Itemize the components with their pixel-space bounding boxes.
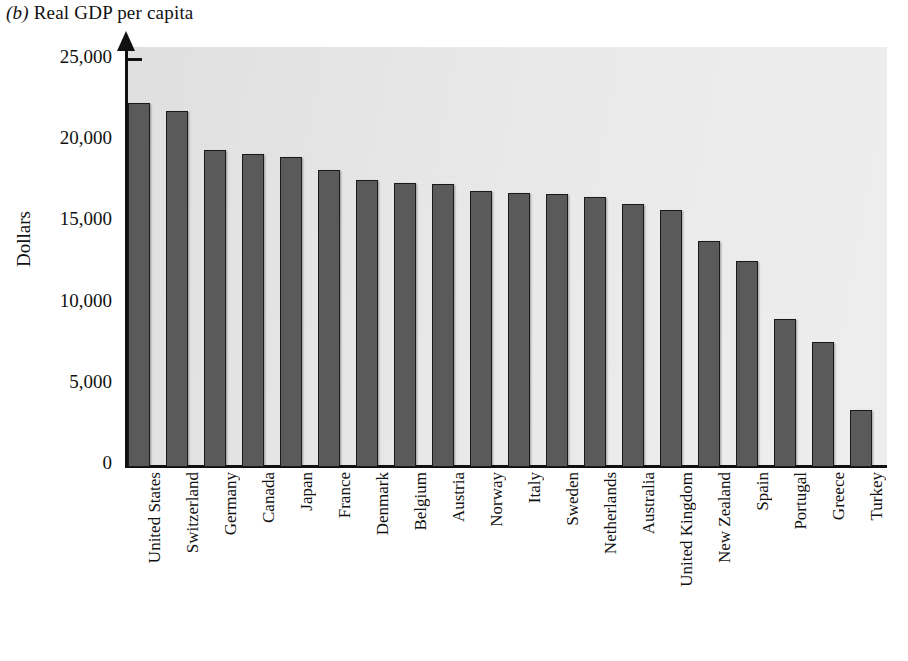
panel-letter: (b) [6, 2, 29, 23]
bar [356, 180, 378, 467]
bar [850, 410, 872, 467]
x-axis-category-label-text: United States [145, 472, 165, 563]
x-axis-category-label-text: Turkey [867, 472, 887, 521]
bar [584, 197, 606, 467]
x-axis-category-label-text: Austria [449, 472, 469, 522]
bar [660, 210, 682, 467]
x-axis-category-label: France [318, 472, 340, 652]
x-axis-category-label: Sweden [546, 472, 568, 652]
bar [318, 170, 340, 467]
x-axis-category-label: Italy [508, 472, 530, 652]
x-axis-category-label-text: Switzerland [183, 472, 203, 553]
figure-real-gdp-per-capita: (b) Real GDP per capita Dollars 25,00020… [0, 0, 908, 661]
x-axis-category-label-text: New Zealand [715, 472, 735, 563]
x-axis-category-label-text: Netherlands [601, 472, 621, 554]
y-axis-tick-label-text: 20,000 [60, 127, 112, 149]
x-axis-category-label: Austria [432, 472, 454, 652]
y-axis-tick-label-text: 0 [103, 452, 113, 474]
bar [736, 261, 758, 467]
bar [508, 193, 530, 467]
bar [166, 111, 188, 467]
x-axis-category-label-text: Canada [259, 472, 279, 523]
figure-title: (b) Real GDP per capita [6, 2, 194, 24]
x-axis-category-label-text: Germany [221, 472, 241, 535]
x-axis-category-label-text: Japan [297, 472, 317, 511]
y-axis-tick-label-text: 10,000 [60, 290, 112, 312]
bar [774, 319, 796, 467]
figure-title-text: Real GDP per capita [34, 2, 194, 23]
x-axis-category-label: United Kingdom [660, 472, 682, 652]
x-axis-category-label: Canada [242, 472, 264, 652]
x-axis-category-label-text: Belgium [411, 472, 431, 531]
x-axis-category-label-text: Portugal [791, 472, 811, 530]
bar [546, 194, 568, 467]
x-axis-category-label: Belgium [394, 472, 416, 652]
x-axis-category-label-text: Denmark [373, 472, 393, 535]
bar [394, 183, 416, 467]
x-axis-category-label: United States [128, 472, 150, 652]
y-axis-tick-label-text: 5,000 [69, 371, 112, 393]
x-axis-category-label: Spain [736, 472, 758, 652]
x-axis-category-label: Australia [622, 472, 644, 652]
x-axis-category-label: Norway [470, 472, 492, 652]
x-axis-category-label: Portugal [774, 472, 796, 652]
x-axis-category-label: Japan [280, 472, 302, 652]
bar-series [125, 47, 887, 467]
bar [204, 150, 226, 467]
x-axis-category-label-text: France [335, 472, 355, 518]
bar [812, 342, 834, 467]
x-axis-category-label: Turkey [850, 472, 872, 652]
y-axis-tick-label-text: 15,000 [60, 208, 112, 230]
bar [698, 241, 720, 467]
x-axis-category-label-text: United Kingdom [677, 472, 697, 587]
x-axis-category-label: Germany [204, 472, 226, 652]
bar [128, 103, 150, 467]
bar [280, 157, 302, 467]
x-axis-category-label: Switzerland [166, 472, 188, 652]
x-axis-category-label-text: Italy [525, 472, 545, 503]
bar [432, 184, 454, 467]
y-axis-tick-label-text: 25,000 [60, 46, 112, 68]
bar [242, 154, 264, 467]
x-axis-category-label: Netherlands [584, 472, 606, 652]
x-axis-category-label-text: Australia [639, 472, 659, 534]
x-axis-category-label-text: Sweden [563, 472, 583, 526]
x-axis-category-label: New Zealand [698, 472, 720, 652]
x-axis-category-label-text: Spain [753, 472, 773, 511]
y-axis-title: Dollars [13, 179, 35, 299]
bar [622, 204, 644, 467]
x-axis-category-label: Denmark [356, 472, 378, 652]
x-axis-category-label-text: Norway [487, 472, 507, 527]
x-axis-category-label: Greece [812, 472, 834, 652]
bar [470, 191, 492, 467]
x-axis-category-label-text: Greece [829, 472, 849, 520]
